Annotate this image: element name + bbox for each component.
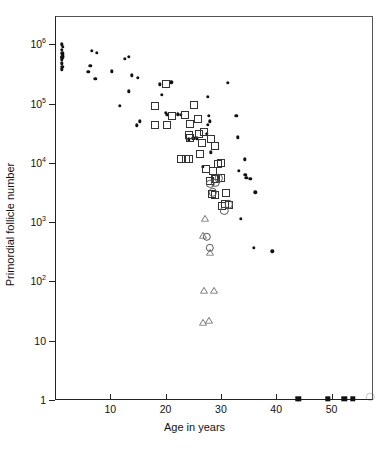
y-tick-label: 103 (30, 217, 46, 228)
data-point-open-square (202, 165, 210, 173)
figure-root: Primordial follicle number 1061051041031… (0, 0, 389, 449)
data-point-filled-circle (130, 74, 133, 77)
data-point-filled-circle (249, 177, 252, 180)
data-point-open-triangle (205, 215, 213, 222)
data-point-filled-circle (236, 136, 239, 139)
data-point-open-circle-baseline (366, 393, 374, 401)
data-point-open-square (181, 111, 189, 119)
data-point-filled-circle (135, 124, 138, 127)
y-tick-label: 106 (30, 39, 46, 50)
y-tick-mark (49, 400, 55, 401)
data-point-filled-circle (136, 76, 139, 79)
data-point-filled-circle (253, 190, 256, 193)
data-point-filled-circle (94, 77, 97, 80)
data-point-filled-circle (226, 81, 229, 84)
y-tick-label: 10 (34, 335, 46, 346)
data-point-zero-axis-filled-square (296, 396, 301, 401)
x-tick-mark (166, 394, 167, 400)
data-point-filled-circle (206, 123, 209, 126)
y-tick-label: 1 (40, 395, 46, 406)
y-tick-mark (49, 281, 55, 282)
data-point-filled-circle (61, 56, 64, 59)
data-point-filled-circle (207, 114, 210, 117)
x-tick-label: 30 (215, 404, 227, 415)
data-point-open-square (190, 101, 198, 109)
data-point-open-square (217, 159, 225, 167)
data-point-open-square (151, 102, 159, 110)
y-axis-label-wrapper: Primordial follicle number (6, 0, 24, 449)
data-point-open-square (198, 139, 206, 147)
data-point-filled-circle (252, 246, 255, 249)
data-point-filled-circle (89, 64, 92, 67)
data-point-filled-circle (118, 104, 121, 107)
y-tick-mark (49, 163, 55, 164)
data-point-filled-circle (60, 67, 63, 70)
data-point-filled-circle (90, 49, 93, 52)
data-point-filled-circle (138, 120, 141, 123)
data-point-filled-circle (86, 70, 89, 73)
x-tick-mark (332, 394, 333, 400)
y-tick-label: 104 (30, 158, 46, 169)
data-point-filled-circle (245, 176, 248, 179)
data-point-open-square (194, 115, 202, 123)
data-point-filled-circle (127, 55, 130, 58)
data-point-filled-circle (237, 169, 240, 172)
data-point-filled-circle (271, 250, 274, 253)
data-point-open-square (151, 121, 159, 129)
data-point-open-square (163, 121, 171, 129)
data-point-open-triangle (209, 317, 217, 324)
data-point-open-square (185, 155, 193, 163)
data-point-open-triangle (214, 288, 222, 295)
data-point-filled-circle (160, 93, 163, 96)
y-axis-label: Primordial follicle number (4, 0, 22, 449)
data-point-filled-circle (208, 120, 211, 123)
data-point-filled-circle (209, 151, 212, 154)
x-axis-label: Age in years (0, 421, 389, 433)
y-tick-mark (49, 104, 55, 105)
data-point-filled-circle (206, 95, 209, 98)
plot-area: 106105104103102101 1020304050 (55, 16, 373, 400)
x-tick-label: 10 (104, 404, 116, 415)
x-tick-mark (221, 394, 222, 400)
data-point-filled-circle (243, 158, 246, 161)
data-point-zero-axis-filled-square (342, 396, 347, 401)
x-tick-label: 20 (160, 404, 172, 415)
data-point-open-square (168, 112, 176, 120)
data-point-filled-circle (95, 51, 98, 54)
data-point-open-triangle (210, 250, 218, 257)
data-point-filled-circle (127, 90, 130, 93)
y-tick-mark (49, 44, 55, 45)
data-point-filled-circle (239, 217, 242, 220)
x-tick-mark (276, 394, 277, 400)
data-point-filled-circle (123, 57, 126, 60)
data-point-zero-axis-filled-square (325, 396, 330, 401)
data-point-zero-axis-filled-square (350, 396, 355, 401)
y-tick-mark (49, 222, 55, 223)
x-tick-label: 40 (270, 404, 282, 415)
x-tick-mark (110, 394, 111, 400)
data-point-filled-circle (61, 45, 64, 48)
data-point-open-square (162, 80, 170, 88)
x-tick-label: 50 (326, 404, 338, 415)
data-point-filled-circle (235, 114, 238, 117)
data-point-filled-circle (110, 70, 113, 73)
y-tick-label: 102 (30, 276, 46, 287)
data-point-open-square (186, 134, 194, 142)
y-tick-label: 105 (30, 98, 46, 109)
data-point-open-square (196, 150, 204, 158)
y-tick-mark (49, 341, 55, 342)
data-point-open-triangle (203, 233, 211, 240)
data-point-open-square (222, 189, 230, 197)
data-point-open-square (211, 142, 219, 150)
